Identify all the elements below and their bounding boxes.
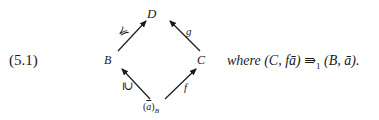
caption-where: where <box>227 53 261 68</box>
arrow-ab-to-c <box>165 69 196 99</box>
caption-lhs: (C, fā) <box>264 53 301 68</box>
node-c: C <box>197 54 205 66</box>
subscript-b: B <box>155 107 159 115</box>
node-d: D <box>147 7 156 20</box>
node-a-bar-sub-b: (a)B <box>143 102 159 115</box>
arrow-c-to-d <box>170 21 200 51</box>
caption-rhs: (B, ā). <box>324 53 359 68</box>
caption-arrow-sub: 1 <box>316 61 321 71</box>
label-g: g <box>186 26 192 37</box>
label-f: f <box>184 82 187 93</box>
caption-arrow: ⇛ <box>304 53 316 68</box>
diagram-caption: where (C, fā) ⇛1 (B, ā). <box>227 52 359 71</box>
label-supseteq: ⊇ <box>122 81 134 91</box>
node-b: B <box>104 54 111 66</box>
